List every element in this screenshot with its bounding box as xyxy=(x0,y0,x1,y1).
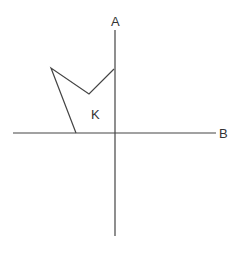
diagram-svg xyxy=(0,0,241,253)
shape-k-outline xyxy=(51,68,114,133)
axis-a-label: A xyxy=(111,15,120,28)
shape-k-label: K xyxy=(91,108,100,121)
axis-b-label: B xyxy=(219,127,228,140)
diagram-canvas: A B K xyxy=(0,0,241,253)
